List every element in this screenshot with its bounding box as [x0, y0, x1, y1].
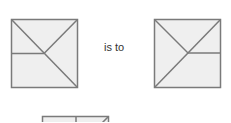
analogy-canvas — [0, 0, 231, 122]
connector-text: is to — [104, 40, 124, 54]
figure-c — [43, 117, 109, 123]
figure-b — [155, 20, 221, 88]
figure-a — [12, 20, 78, 88]
